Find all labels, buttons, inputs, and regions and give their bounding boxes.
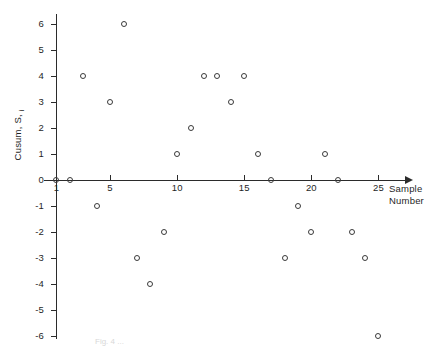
- y-axis-tick-label: -1: [0, 201, 44, 211]
- x-axis-tick-label: 10: [164, 183, 190, 193]
- y-axis-tick: [51, 128, 57, 129]
- y-axis-tick-label-text: -1: [0, 201, 44, 211]
- y-axis-tick-label-text: -3: [0, 253, 44, 263]
- x-axis-title-line2: Number: [389, 195, 424, 206]
- y-axis-tick-label: -4: [0, 279, 44, 289]
- y-axis-tick-label: -6: [0, 331, 44, 341]
- x-axis-title: Sample Number: [389, 183, 424, 206]
- x-axis-tick-label: 20: [298, 183, 324, 193]
- y-axis-title-sub: ,: [12, 111, 23, 117]
- y-axis-tick: [51, 284, 57, 285]
- y-axis-title-subscript: i: [17, 110, 26, 112]
- y-axis-tick: [51, 24, 57, 25]
- data-point: [174, 151, 180, 157]
- x-axis-tick: [244, 175, 245, 181]
- y-axis-tick-label: 3: [0, 97, 44, 107]
- data-point: [241, 73, 247, 79]
- data-point: [67, 177, 73, 183]
- y-axis-tick: [51, 50, 57, 51]
- y-axis-tick: [51, 76, 57, 77]
- data-point: [94, 203, 100, 209]
- x-axis-tick-label: 25: [365, 183, 391, 193]
- y-axis-tick-label: 6: [0, 19, 44, 29]
- y-axis-tick-label: 4: [0, 71, 44, 81]
- y-axis-tick-label-text: 3: [0, 97, 44, 107]
- x-axis-tick: [378, 175, 379, 181]
- data-point: [121, 21, 127, 27]
- data-point: [80, 73, 86, 79]
- y-axis-tick-label-text: 5: [0, 45, 44, 55]
- data-point: [375, 333, 381, 339]
- y-axis-tick: [51, 102, 57, 103]
- data-point: [349, 229, 355, 235]
- data-point: [161, 229, 167, 235]
- x-axis-title-line1: Sample: [389, 183, 422, 194]
- data-point: [214, 73, 220, 79]
- y-axis-tick-label-text: 1: [0, 149, 44, 159]
- x-axis-tick: [311, 175, 312, 181]
- y-axis-tick-label-text: 6: [0, 19, 44, 29]
- data-point: [134, 255, 140, 261]
- y-axis-tick: [51, 310, 57, 311]
- y-axis-tick-label: 1: [0, 149, 44, 159]
- data-point: [295, 203, 301, 209]
- y-axis-tick-label-text: 0: [0, 175, 44, 185]
- y-axis-tick-label-text: 2: [0, 123, 44, 133]
- x-axis-tick: [110, 175, 111, 181]
- data-point: [188, 125, 194, 131]
- data-point: [335, 177, 341, 183]
- data-point: [147, 281, 153, 287]
- y-axis-tick-label: 5: [0, 45, 44, 55]
- y-axis-tick-label-text: 4: [0, 71, 44, 81]
- y-axis-tick-label: -5: [0, 305, 44, 315]
- data-point: [268, 177, 274, 183]
- y-axis-tick-label: 0: [0, 175, 44, 185]
- data-point: [201, 73, 207, 79]
- data-point: [107, 99, 113, 105]
- data-point: [228, 99, 234, 105]
- cusum-scatter-chart: Cusum, S, i Sample Number 6543210-1-2-3-…: [0, 0, 437, 348]
- data-point: [308, 229, 314, 235]
- y-axis-tick: [51, 154, 57, 155]
- y-axis-tick-label: -2: [0, 227, 44, 237]
- y-axis-tick-label-text: -6: [0, 331, 44, 341]
- y-axis-tick-label-text: -4: [0, 279, 44, 289]
- data-point: [255, 151, 261, 157]
- y-axis-tick: [51, 232, 57, 233]
- y-axis-tick-label-text: -2: [0, 227, 44, 237]
- x-axis-line: [44, 180, 409, 181]
- y-axis-tick: [51, 336, 57, 337]
- data-point: [322, 151, 328, 157]
- y-axis-tick-label: 2: [0, 123, 44, 133]
- y-axis-tick: [51, 206, 57, 207]
- data-point: [282, 255, 288, 261]
- y-axis-tick-label-text: -5: [0, 305, 44, 315]
- x-axis-tick-label: 5: [97, 183, 123, 193]
- data-point: [362, 255, 368, 261]
- figure-caption: Fig. 4 ...: [95, 337, 124, 346]
- x-axis-tick-label: 15: [231, 183, 257, 193]
- y-axis-tick: [51, 258, 57, 259]
- x-axis-tick: [177, 175, 178, 181]
- x-axis-first-sample-label: 1: [43, 183, 69, 193]
- y-axis-tick-label: -3: [0, 253, 44, 263]
